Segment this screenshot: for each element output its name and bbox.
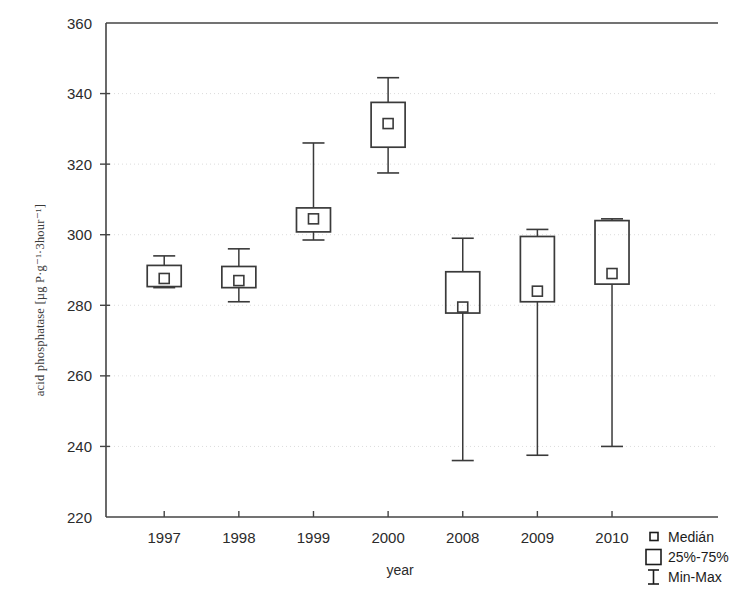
legend-item-range: Min-Max bbox=[648, 569, 722, 585]
x-tick-label: 2008 bbox=[446, 529, 479, 546]
legend-item-median: Medián bbox=[650, 529, 714, 545]
median-square-icon bbox=[650, 533, 658, 541]
grid-lines bbox=[106, 94, 718, 447]
quartile-box bbox=[296, 208, 330, 232]
quartile-box bbox=[371, 102, 405, 147]
legend-label: Medián bbox=[668, 529, 714, 545]
y-axis-title: acid phosphatase [µg P·g⁻¹·3hour⁻¹] bbox=[33, 204, 47, 396]
median-marker bbox=[383, 119, 393, 129]
y-axis-title-label: acid phosphatase [µg P·g⁻¹·3hour⁻¹] bbox=[33, 204, 47, 396]
median-marker bbox=[159, 273, 169, 283]
y-tick-label: 300 bbox=[67, 226, 92, 243]
box-plot-group-2000 bbox=[371, 78, 405, 173]
median-marker bbox=[458, 302, 468, 312]
x-tick-label: 1998 bbox=[222, 529, 255, 546]
chart-legend: Medián25%-75%Min-Max bbox=[646, 529, 729, 585]
median-marker bbox=[532, 286, 542, 296]
y-tick-label: 220 bbox=[67, 509, 92, 526]
x-axis-title-label: year bbox=[386, 562, 414, 578]
x-tick-label: 1999 bbox=[297, 529, 330, 546]
legend-item-quartiles: 25%-75% bbox=[646, 549, 729, 565]
y-tick-label: 260 bbox=[67, 367, 92, 384]
quartile-box bbox=[446, 272, 480, 313]
median-marker bbox=[234, 276, 244, 286]
y-tick-label: 320 bbox=[67, 156, 92, 173]
chart-canvas: 220240260280300320340360 199719981999200… bbox=[0, 0, 753, 597]
box-plot-group-2010 bbox=[595, 219, 629, 447]
box-plot-group-1998 bbox=[222, 249, 256, 302]
box-plot-series bbox=[147, 78, 629, 461]
y-tick-label: 360 bbox=[67, 15, 92, 32]
box-plot-group-2008 bbox=[446, 238, 480, 460]
legend-label: 25%-75% bbox=[668, 549, 729, 565]
box-plot-chart: 220240260280300320340360 199719981999200… bbox=[0, 0, 753, 597]
box-plot-group-1997 bbox=[147, 256, 181, 288]
axis-frame bbox=[106, 23, 718, 517]
median-marker bbox=[308, 214, 318, 224]
y-tick-label: 340 bbox=[67, 85, 92, 102]
legend-label: Min-Max bbox=[668, 569, 722, 585]
y-tick-label: 280 bbox=[67, 297, 92, 314]
y-axis-ticks: 220240260280300320340360 bbox=[67, 15, 110, 526]
x-axis-title: year bbox=[386, 562, 414, 578]
quartile-square-icon bbox=[646, 550, 661, 565]
quartile-box bbox=[595, 221, 629, 285]
x-tick-label: 1997 bbox=[148, 529, 181, 546]
x-tick-label: 2000 bbox=[371, 529, 404, 546]
x-tick-label: 2010 bbox=[595, 529, 628, 546]
box-plot-group-1999 bbox=[296, 143, 330, 240]
box-plot-group-2009 bbox=[520, 229, 554, 455]
y-tick-label: 240 bbox=[67, 438, 92, 455]
quartile-box bbox=[222, 266, 256, 287]
median-marker bbox=[607, 269, 617, 279]
x-tick-label: 2009 bbox=[521, 529, 554, 546]
quartile-box bbox=[520, 236, 554, 301]
